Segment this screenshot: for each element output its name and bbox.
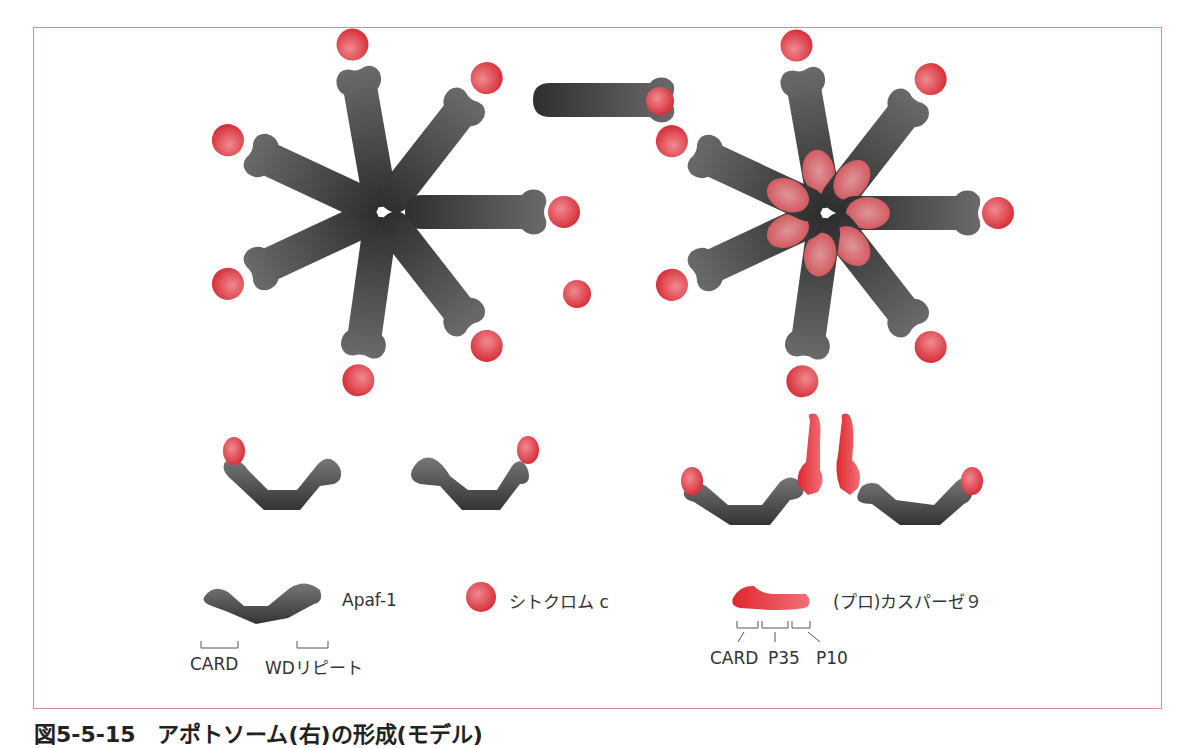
apaf1-wheel-left xyxy=(204,25,580,399)
cytochrome-c-free xyxy=(563,280,591,308)
caspase-domain-p35: P35 xyxy=(768,648,800,668)
apaf1-domain-card: CARD xyxy=(190,654,238,674)
caspase9-legend-icon xyxy=(732,586,809,610)
apaf1-domain-wd: WDリピート xyxy=(265,654,363,679)
cytochrome-c-label: シトクロム c xyxy=(509,588,609,613)
caspase-domain-card: CARD xyxy=(710,648,758,668)
apaf1-legend-icon xyxy=(204,583,322,624)
cytochrome-c-legend-icon xyxy=(466,582,496,612)
apaf1-label: Apaf-1 xyxy=(342,590,397,610)
apaf1-side-right-2 xyxy=(857,467,983,525)
caspase9-label: (プロ)カスパーゼ９ xyxy=(833,588,982,613)
apoptosome-wheel-right xyxy=(648,26,1014,400)
apaf1-side-left-1 xyxy=(223,437,341,510)
cytochrome-c-partial xyxy=(646,87,674,115)
apaf1-side-left-2 xyxy=(411,436,539,510)
figure-caption: 図5-5-15 アポトソーム(右)の形成(モデル) xyxy=(34,716,483,748)
caspase9-dimer xyxy=(798,414,860,495)
caspase-domain-p10: P10 xyxy=(816,648,848,668)
domain-brackets xyxy=(201,621,820,648)
apaf1-side-right-1 xyxy=(681,467,804,525)
